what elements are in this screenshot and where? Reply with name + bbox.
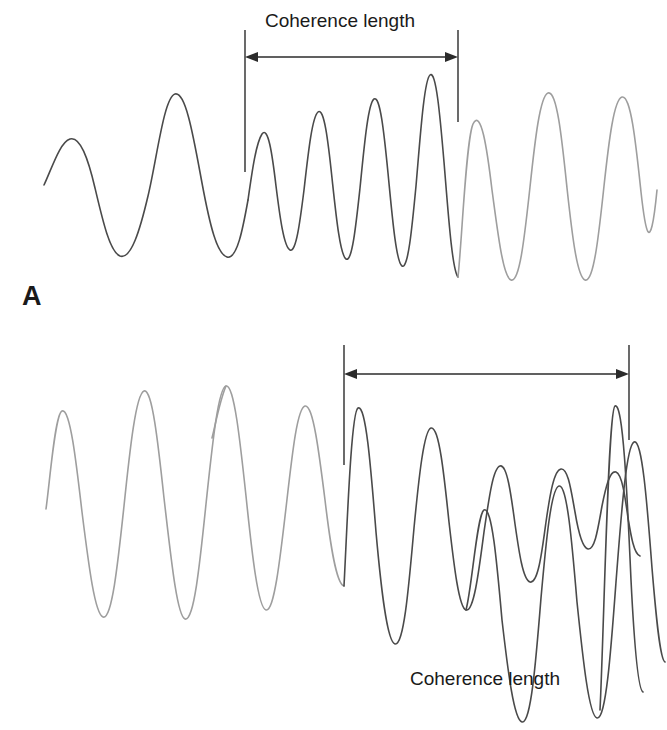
wave-b-right-spikes — [600, 406, 643, 710]
panel-b-plot-main — [0, 330, 667, 730]
panel-letter-a: A — [22, 283, 42, 310]
coherence-length-label-a: Coherence length — [265, 10, 415, 32]
wave-a-left — [44, 94, 248, 257]
coherence-arrow-head-left — [245, 52, 258, 62]
panel-a-plot — [0, 0, 667, 330]
coherence-arrow-head-right — [616, 369, 629, 379]
coherence-length-label-b: Coherence length — [410, 668, 560, 690]
panel-a: A Coherence length — [0, 0, 667, 330]
coherence-length-figure: A Coherence length B Coherence l — [0, 0, 667, 730]
coherence-arrow-head-left — [344, 369, 357, 379]
panel-b: B Coherence length — [0, 330, 667, 730]
wave-a-coherent — [248, 75, 458, 277]
wave-b-left — [46, 386, 344, 619]
wave-b-node-grey — [212, 386, 226, 438]
wave-a-right — [458, 93, 657, 280]
coherence-arrow-head-right — [445, 52, 458, 62]
